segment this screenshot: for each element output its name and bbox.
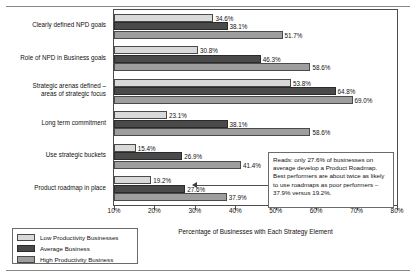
- bar-row: 38.1%: [114, 120, 397, 128]
- x-axis-title: Percentage of Businesses with Each Strat…: [113, 228, 398, 235]
- bar-value-label: 30.8%: [198, 47, 218, 54]
- bar-row: 53.8%: [114, 79, 397, 87]
- bar-value-label: 58.6%: [310, 64, 330, 71]
- bar-value-label: 15.4%: [136, 144, 156, 151]
- bar-row: 69.0%: [114, 96, 397, 104]
- bar-value-label: 37.9%: [227, 194, 247, 201]
- x-tick-label: 50%: [256, 207, 296, 214]
- legend-label: Average Business: [40, 245, 90, 252]
- page-rule-bottom: [6, 270, 410, 271]
- bar: [114, 176, 151, 184]
- bar-row: 64.8%: [114, 87, 397, 95]
- legend-label: High Productivity Business: [40, 256, 113, 263]
- x-tick-label: 40%: [215, 207, 255, 214]
- legend-item: High Productivity Business: [17, 254, 133, 264]
- bar: [114, 31, 283, 39]
- bar-row: 30.8%: [114, 46, 397, 54]
- bar-value-label: 23.1%: [167, 112, 187, 119]
- callout-arrow-icon: [192, 182, 197, 188]
- bar-value-label: 46.3%: [261, 55, 281, 62]
- x-tick-label: 80%: [377, 207, 416, 214]
- bar: [114, 55, 261, 63]
- bar-value-label: 58.6%: [310, 129, 330, 136]
- bar: [114, 120, 228, 128]
- category-label: Long term commitment: [0, 119, 106, 127]
- bar-row: 15.4%: [114, 144, 397, 152]
- bar: [114, 161, 241, 169]
- bar: [114, 128, 310, 136]
- bar-value-label: 26.9%: [182, 153, 202, 160]
- x-tick-label: 30%: [175, 207, 215, 214]
- bar: [114, 96, 353, 104]
- bar-value-label: 34.6%: [213, 14, 233, 21]
- bar-value-label: 41.4%: [241, 161, 261, 168]
- category-label: Product roadmap in place: [0, 184, 106, 192]
- bar: [114, 144, 136, 152]
- category-axis-labels: Clearly defined NPD goalsRole of NPD in …: [0, 9, 110, 206]
- x-tick-label: 10%: [94, 207, 134, 214]
- legend-item: Low Productivity Businesses: [17, 232, 133, 242]
- category-label: Strategic arenas defined –areas of strat…: [0, 82, 106, 97]
- bar: [114, 14, 213, 22]
- bar-row: 34.6%: [114, 14, 397, 22]
- bar: [114, 111, 167, 119]
- legend-swatch: [17, 234, 35, 241]
- bar-value-label: 19.2%: [151, 177, 171, 184]
- bar: [114, 193, 227, 201]
- page-rule-top: [6, 6, 410, 7]
- bar: [114, 46, 198, 54]
- x-tick-label: 20%: [134, 207, 174, 214]
- bar-value-label: 51.7%: [283, 31, 303, 38]
- category-label: Use strategic buckets: [0, 151, 106, 159]
- bar: [114, 63, 310, 71]
- bar-value-label: 53.8%: [291, 79, 311, 86]
- product-roadmap-callout: Reads: only 27.6% of businesses on avera…: [268, 152, 394, 208]
- legend-label: Low Productivity Businesses: [40, 234, 118, 241]
- bar-value-label: 38.1%: [228, 23, 248, 30]
- callout-leader-line: [196, 185, 268, 186]
- category-label: Role of NPD in Business goals: [0, 54, 106, 62]
- bar-value-label: 69.0%: [353, 96, 373, 103]
- bar-row: 58.6%: [114, 63, 397, 71]
- bar-row: 38.1%: [114, 22, 397, 30]
- chart-figure: Clearly defined NPD goalsRole of NPD in …: [0, 0, 416, 278]
- bar: [114, 22, 228, 30]
- x-tick-label: 60%: [296, 207, 336, 214]
- legend-item: Average Business: [17, 243, 133, 253]
- bar-row: 58.6%: [114, 128, 397, 136]
- bar-row: 51.7%: [114, 31, 397, 39]
- chart-legend: Low Productivity BusinessesAverage Busin…: [12, 228, 138, 264]
- legend-swatch: [17, 256, 35, 263]
- bar: [114, 152, 182, 160]
- bar-row: 46.3%: [114, 55, 397, 63]
- legend-swatch: [17, 245, 35, 252]
- bar: [114, 79, 291, 87]
- bar-value-label: 64.8%: [336, 88, 356, 95]
- bar: [114, 87, 336, 95]
- x-tick-label: 70%: [337, 207, 377, 214]
- bar-value-label: 38.1%: [228, 120, 248, 127]
- bar: [114, 185, 185, 193]
- x-axis-tick-labels: 10%20%30%40%50%60%70%80%: [0, 207, 416, 219]
- bar-row: 23.1%: [114, 111, 397, 119]
- category-label: Clearly defined NPD goals: [0, 21, 106, 29]
